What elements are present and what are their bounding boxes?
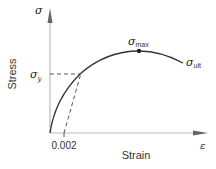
offset-label: 0.002 (51, 140, 76, 151)
yield-label: σy (30, 68, 43, 83)
ultimate-label: σult (186, 56, 201, 69)
x-axis-label: Strain (122, 149, 151, 161)
max-point-dot (137, 49, 141, 53)
stress-strain-diagram: σ Stress σy σmax σult 0.002 Strain ε (0, 0, 216, 169)
y-axis-label: Stress (6, 58, 18, 90)
max-label: σmax (128, 35, 149, 48)
stress-strain-curve (50, 51, 183, 133)
y-axis-arrow-icon (48, 8, 53, 23)
x-axis-arrow-icon (193, 131, 208, 136)
y-axis-symbol: σ (35, 4, 43, 17)
x-axis-symbol: ε (200, 140, 205, 151)
